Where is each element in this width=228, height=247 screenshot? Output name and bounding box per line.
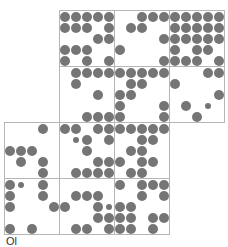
small-dot xyxy=(106,204,112,210)
small-dot xyxy=(73,137,79,143)
dot xyxy=(148,124,158,134)
dot xyxy=(93,213,103,223)
dot xyxy=(126,124,136,134)
dot xyxy=(203,45,213,55)
dot xyxy=(126,90,136,100)
dot xyxy=(170,45,180,55)
dot xyxy=(203,68,213,78)
dot xyxy=(159,12,169,22)
dot xyxy=(148,12,158,22)
dot xyxy=(181,23,191,33)
dot xyxy=(181,34,191,44)
dot xyxy=(181,56,191,66)
dot xyxy=(104,68,114,78)
dot xyxy=(137,79,147,89)
dot xyxy=(115,124,125,134)
dot xyxy=(126,213,136,223)
dot xyxy=(93,34,103,44)
dot xyxy=(137,191,147,201)
dot xyxy=(38,124,48,134)
dot xyxy=(5,224,15,234)
dot xyxy=(5,180,15,190)
dot xyxy=(16,157,26,167)
dot xyxy=(49,202,59,212)
dot xyxy=(82,45,92,55)
dot xyxy=(71,68,81,78)
dot xyxy=(38,168,48,178)
dot xyxy=(192,23,202,33)
dot xyxy=(159,180,169,190)
dot xyxy=(214,23,224,33)
dot xyxy=(148,180,158,190)
dot xyxy=(181,101,191,111)
dot xyxy=(93,168,103,178)
dot xyxy=(137,168,147,178)
dot xyxy=(115,68,125,78)
dot xyxy=(159,213,169,223)
dot xyxy=(214,90,224,100)
dot xyxy=(115,157,125,167)
dot xyxy=(82,191,92,201)
dot xyxy=(71,12,81,22)
dot xyxy=(71,168,81,178)
dot xyxy=(159,101,169,111)
dot xyxy=(93,157,103,167)
dot xyxy=(148,157,158,167)
dot xyxy=(82,168,92,178)
dot xyxy=(82,135,92,145)
dot xyxy=(170,23,180,33)
dot xyxy=(170,12,180,22)
dot xyxy=(71,45,81,55)
small-dot xyxy=(205,103,211,109)
dot xyxy=(170,56,180,66)
dot xyxy=(192,56,202,66)
dot xyxy=(104,135,114,145)
dot xyxy=(137,124,147,134)
dot xyxy=(137,135,147,145)
dot xyxy=(38,191,48,201)
dot xyxy=(159,191,169,201)
dot xyxy=(82,12,92,22)
dot xyxy=(115,180,125,190)
dot xyxy=(159,56,169,66)
dot xyxy=(214,68,224,78)
dot xyxy=(115,90,125,100)
dot xyxy=(104,224,114,234)
dot xyxy=(93,191,103,201)
dot xyxy=(71,191,81,201)
dot xyxy=(137,157,147,167)
dot xyxy=(71,23,81,33)
dot xyxy=(126,23,136,33)
dot xyxy=(104,124,114,134)
dot xyxy=(126,224,136,234)
dot xyxy=(115,213,125,223)
dot xyxy=(115,101,125,111)
dot xyxy=(93,90,103,100)
dot xyxy=(60,56,70,66)
dot xyxy=(27,146,37,156)
dot xyxy=(5,191,15,201)
dot xyxy=(192,34,202,44)
dot xyxy=(82,146,92,156)
dot xyxy=(137,146,147,156)
dot xyxy=(115,45,125,55)
dot xyxy=(104,157,114,167)
dot xyxy=(159,112,169,122)
dot xyxy=(60,202,70,212)
dot xyxy=(148,68,158,78)
dot xyxy=(137,180,147,190)
dot xyxy=(104,112,114,122)
dot xyxy=(126,146,136,156)
dot xyxy=(137,12,147,22)
dot xyxy=(93,124,103,134)
dot xyxy=(159,124,169,134)
small-dot xyxy=(18,182,24,188)
dot xyxy=(214,12,224,22)
dot xyxy=(5,146,15,156)
dot xyxy=(170,79,180,89)
dot xyxy=(93,112,103,122)
dot xyxy=(82,56,92,66)
dot xyxy=(126,168,136,178)
dot xyxy=(93,202,103,212)
